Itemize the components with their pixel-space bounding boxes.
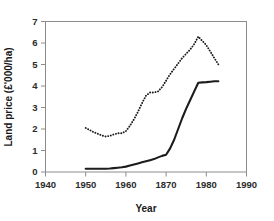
data-series-layer <box>86 37 219 169</box>
land-price-line-chart: 01234567 194019501960187019801990 Year L… <box>0 0 274 221</box>
x-tick-label: 1980 <box>196 179 217 190</box>
x-tick-label: 1990 <box>236 179 257 190</box>
x-axis-title: Year <box>135 203 156 214</box>
y-axis-title: Land price (£'000/ha) <box>3 47 14 146</box>
y-tick-label: 7 <box>32 16 37 27</box>
x-axis-ticks: 194019501960187019801990 <box>35 172 257 190</box>
y-tick-label: 1 <box>32 145 38 156</box>
series-real-price-dotted <box>86 37 219 137</box>
y-tick-label: 0 <box>32 166 37 177</box>
y-axis-ticks: 01234567 <box>32 16 45 178</box>
x-tick-label: 1870 <box>156 179 177 190</box>
chart-figure: 01234567 194019501960187019801990 Year L… <box>0 0 274 221</box>
x-tick-label: 1950 <box>75 179 96 190</box>
x-tick-label: 1940 <box>35 179 56 190</box>
x-tick-label: 1960 <box>115 179 136 190</box>
y-tick-label: 3 <box>32 102 37 113</box>
series-nominal-price-solid <box>86 81 219 169</box>
y-tick-label: 5 <box>32 59 38 70</box>
y-tick-label: 6 <box>32 37 37 48</box>
y-tick-label: 4 <box>32 80 38 91</box>
y-tick-label: 2 <box>32 123 37 134</box>
